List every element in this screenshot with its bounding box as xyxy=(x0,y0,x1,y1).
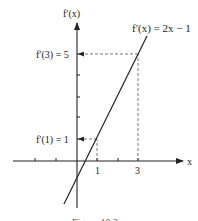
figure-caption: Figure 10.3 xyxy=(72,217,118,221)
x-tick-label-1: 1 xyxy=(95,165,100,176)
label-f1: f′(1) = 1 xyxy=(36,134,69,146)
label-f3: f′(3) = 5 xyxy=(36,49,69,61)
function-label: f′(x) = 2x − 1 xyxy=(132,22,191,35)
derivative-graph-figure: f′(x) x f′(x) = 2x − 1 f′(3) = 5 f′(1) =… xyxy=(0,0,198,221)
x-tick-label-3: 3 xyxy=(135,165,140,176)
guide-f3 xyxy=(79,54,138,161)
y-axis-label: f′(x) xyxy=(63,8,80,20)
graph-canvas: f′(x) x f′(x) = 2x − 1 f′(3) = 5 f′(1) =… xyxy=(0,0,198,221)
x-axis-label: x xyxy=(187,156,192,167)
